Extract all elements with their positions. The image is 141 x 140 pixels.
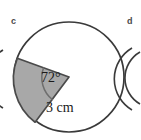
figure-panel: 72° 3 cm c d (0, 0, 141, 140)
left-neighbour-arc-fragment (0, 50, 3, 108)
part-label-c: c (11, 17, 16, 26)
part-label-d: d (127, 17, 133, 26)
circle-sector-diagram: 72° 3 cm (0, 0, 141, 140)
radius-label: 3 cm (46, 100, 74, 115)
angle-label: 72° (41, 70, 61, 85)
right-neighbour-arc-fragment-inner (125, 52, 140, 104)
